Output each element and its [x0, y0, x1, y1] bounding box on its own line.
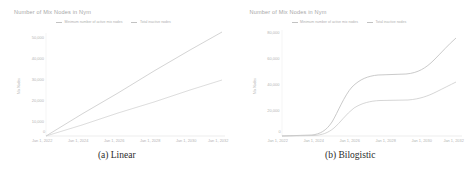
- x-tick-label: Jan 1, 2026: [340, 138, 360, 143]
- x-tick-label: Jan 1, 2032: [208, 138, 228, 143]
- panel-bilogistic: Number of Mix Nodes in Nym Minimum numbe…: [234, 0, 467, 173]
- panel-caption-linear: (a) Linear: [0, 150, 234, 160]
- x-tick-label: Jan 1, 2030: [176, 138, 196, 143]
- x-tick-label: Jan 1, 2024: [68, 138, 88, 143]
- x-tick-label: Jan 1, 2032: [444, 138, 464, 143]
- x-tick-label: Jan 1, 2030: [412, 138, 432, 143]
- x-tick-label: Jan 1, 2024: [304, 138, 324, 143]
- plot-lines-bilogistic: [234, 0, 467, 150]
- panel-linear: Number of Mix Nodes in Nym Minimum numbe…: [0, 0, 234, 173]
- series-curve-active-nodes: [282, 38, 456, 136]
- series-line-inactive-nodes: [46, 80, 222, 136]
- x-tick-label: Jan 1, 2026: [104, 138, 124, 143]
- x-tick-label: Jan 1, 2022: [32, 138, 52, 143]
- series-curve-inactive-nodes: [282, 82, 456, 136]
- x-tick-label: Jan 1, 2028: [376, 138, 396, 143]
- chart-linear: Number of Mix Nodes in Nym Minimum numbe…: [0, 0, 234, 150]
- figure-two-panel-charts: Number of Mix Nodes in Nym Minimum numbe…: [0, 0, 467, 173]
- x-tick-label: Jan 1, 2022: [268, 138, 288, 143]
- chart-bilogistic: Number of Mix Nodes in Nym Minimum numbe…: [234, 0, 467, 150]
- series-line-active-nodes: [46, 32, 222, 136]
- panel-caption-bilogistic: (b) Bilogistic: [234, 150, 467, 160]
- x-tick-label: Jan 1, 2028: [140, 138, 160, 143]
- plot-lines-linear: [0, 0, 234, 150]
